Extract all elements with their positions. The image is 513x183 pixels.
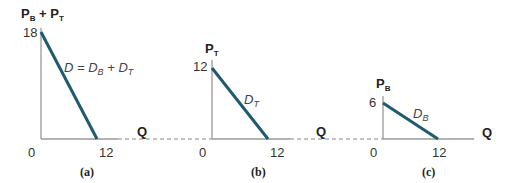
y-axis-label: PB [376,76,391,93]
panel-a: PB + PT 18 0 12 Q D = DB + DT (a) [21,6,147,179]
x-tick-0: 0 [28,145,35,160]
x-tick-0: 0 [370,145,377,160]
x-axis-label: Q [482,125,492,140]
y-axis-label: PB + PT [21,6,64,23]
x-axis-label: Q [137,124,147,139]
x-tick-12: 12 [432,145,446,160]
demand-charts: PB + PT 18 0 12 Q D = DB + DT (a) PT 12 … [0,0,513,183]
panel-c: PB 6 0 12 Q DB (c) [369,76,492,179]
y-tick-12: 12 [193,59,207,74]
panel-label: (c) [422,165,435,179]
panel-b: PT 12 0 12 Q DT (b) [193,41,326,179]
panel-label: (a) [80,165,94,179]
curve-label: D = DB + DT [64,60,135,77]
x-tick-12: 12 [99,145,113,160]
x-tick-0: 0 [199,145,206,160]
curve-label: DT [244,92,260,109]
x-tick-12: 12 [270,145,284,160]
curve-label: DB [413,106,428,123]
panel-label: (b) [251,165,266,179]
x-axis-label: Q [316,124,326,139]
demand-curve-t [212,68,268,139]
demand-curve-b [383,103,438,139]
y-tick-18: 18 [23,25,37,40]
y-tick-6: 6 [369,95,376,110]
demand-curve-total [41,32,97,139]
y-axis-label: PT [205,41,219,58]
